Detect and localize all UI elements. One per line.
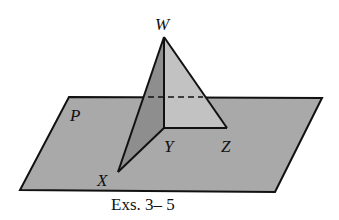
label-z: Z bbox=[221, 137, 231, 156]
label-p: P bbox=[69, 106, 80, 125]
label-x: X bbox=[96, 171, 108, 190]
label-w: W bbox=[155, 15, 171, 34]
label-y: Y bbox=[164, 137, 175, 156]
figure-canvas: W P Y Z X Exs. 3– 5 bbox=[0, 0, 339, 220]
figure-caption: Exs. 3– 5 bbox=[111, 195, 175, 214]
geometry-figure: W P Y Z X Exs. 3– 5 bbox=[0, 0, 339, 220]
